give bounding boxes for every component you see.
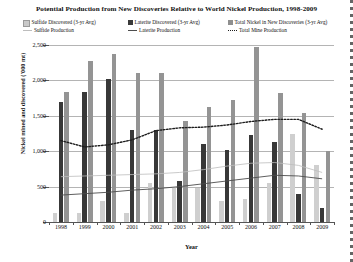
line-dotted-swatch-icon [228, 28, 237, 33]
legend-label: Laterite Production [139, 27, 180, 34]
chart-page: Potential Production from New Discoverie… [0, 0, 353, 262]
y-tick-label: 2,500 [33, 42, 47, 48]
x-tick-label-2006: 2006 [239, 224, 263, 230]
x-tick-label-2001: 2001 [120, 224, 144, 230]
x-tick-mark [144, 222, 145, 225]
x-tick-label-1998: 1998 [49, 224, 73, 230]
x-tick-mark [334, 222, 335, 225]
y-tick-label: 500 [37, 184, 46, 190]
x-tick-label-2008: 2008 [286, 224, 310, 230]
chart-legend: Sulfide Discovered (3-yr Avg) Laterite D… [23, 19, 338, 34]
legend-label: Laterite Discovered (3-yr Avg) [135, 19, 200, 26]
x-tick-label-2004: 2004 [191, 224, 215, 230]
x-tick-mark [120, 222, 121, 225]
x-tick-mark [263, 222, 264, 225]
legend-item-sulfide-discovered[interactable]: Sulfide Discovered (3-yr Avg) [23, 19, 128, 27]
square-gray-swatch-icon [228, 20, 233, 25]
legend-row-lines: Sulfide Production Laterite Production T… [23, 27, 338, 34]
x-tick-label-2000: 2000 [96, 224, 120, 230]
legend-label: Total Nickel in New Discoveries (3-yr Av… [235, 19, 328, 26]
x-tick-mark [49, 222, 50, 225]
y-axis-label: Nickel mined and discovered ('000 mt) [19, 19, 26, 189]
legend-label: Total Mine Production [239, 27, 287, 34]
x-tick-mark [73, 222, 74, 225]
x-tick-label-2007: 2007 [263, 224, 287, 230]
x-tick-label-2002: 2002 [144, 224, 168, 230]
line-dark-swatch-icon [128, 28, 137, 33]
legend-item-laterite-production[interactable]: Laterite Production [128, 27, 228, 34]
x-tick-label-2005: 2005 [215, 224, 239, 230]
y-tick-label: 0 [43, 219, 46, 225]
x-tick-mark [97, 222, 98, 225]
x-tick-label-2009: 2009 [310, 224, 334, 230]
line-sulfide-production [61, 163, 322, 177]
x-tick-label-2003: 2003 [168, 224, 192, 230]
legend-item-total-nickel-new-discoveries[interactable]: Total Nickel in New Discoveries (3-yr Av… [228, 19, 338, 27]
line-total-mine-production [61, 119, 322, 147]
x-tick-mark [239, 222, 240, 225]
line-series-layer [49, 45, 334, 222]
y-tick-label: 2,000 [33, 77, 47, 83]
legend-row-bars: Sulfide Discovered (3-yr Avg) Laterite D… [23, 19, 338, 27]
legend-item-sulfide-production[interactable]: Sulfide Production [23, 27, 128, 34]
x-axis-label: Year [49, 243, 334, 250]
x-tick-mark [215, 222, 216, 225]
line-laterite-production [61, 175, 322, 195]
x-tick-mark [168, 222, 169, 225]
x-tick-label-1999: 1999 [73, 224, 97, 230]
x-tick-mark [310, 222, 311, 225]
plot-area: 05001,0001,5002,0002,500 [49, 45, 334, 222]
x-axis-ticks: 1998199920002001200220032004200520062007… [49, 224, 334, 236]
legend-item-total-mine-production[interactable]: Total Mine Production [228, 27, 338, 34]
legend-label: Sulfide Production [34, 27, 74, 34]
x-tick-mark [287, 222, 288, 225]
legend-item-laterite-discovered[interactable]: Laterite Discovered (3-yr Avg) [128, 19, 228, 27]
y-tick-label: 1,500 [33, 113, 47, 119]
square-dark-swatch-icon [128, 20, 133, 25]
chart-title: Potential Production from New Discoverie… [0, 5, 353, 14]
x-tick-mark [192, 222, 193, 225]
y-tick-label: 1,000 [33, 148, 47, 154]
legend-label: Sulfide Discovered (3-yr Avg) [32, 19, 96, 26]
